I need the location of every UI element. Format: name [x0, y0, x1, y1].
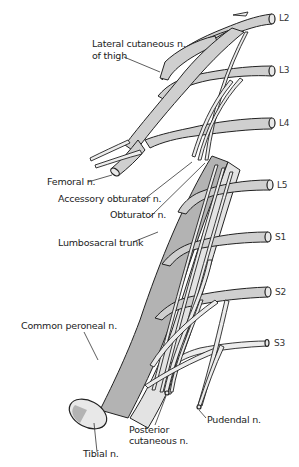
root-label-L3: L3	[279, 65, 289, 76]
root-L4-cap	[269, 118, 275, 128]
root-label-S3: S3	[274, 338, 285, 349]
label-obturator: Obturator n.	[110, 209, 166, 220]
root-S3-cap	[265, 340, 269, 347]
leader-pudendal	[199, 410, 206, 418]
root-label-L2: L2	[279, 13, 289, 24]
label-femoral: Femoral n.	[47, 176, 95, 187]
root-label-L5: L5	[277, 180, 287, 191]
sciatic-cut-end	[64, 393, 112, 435]
leader-common-peroneal	[84, 332, 98, 360]
lumbar-plexus-group	[90, 12, 275, 178]
label-lumbosacral-trunk: Lumbosacral trunk	[58, 237, 143, 248]
label-lateral-cutaneous-line1: Lateral cutaneous n.	[92, 38, 186, 49]
root-label-S2: S2	[275, 287, 286, 298]
label-accessory-obturator: Accessory obturator n.	[58, 193, 161, 204]
root-S2-cap	[265, 287, 271, 297]
label-common-peroneal: Common peroneal n.	[21, 320, 117, 331]
L2-small-branch	[233, 12, 248, 16]
label-tibial: Tibial n.	[83, 448, 119, 459]
label-posterior-cutaneous-line1: Posterior	[129, 424, 169, 435]
pudendal-cap	[197, 405, 201, 409]
posterior-cutaneous-cap	[165, 391, 169, 395]
label-lateral-cutaneous-line2: of thigh	[92, 50, 127, 61]
root-S1-cap	[265, 232, 271, 242]
root-label-S1: S1	[275, 232, 286, 243]
label-pudendal: Pudendal n.	[207, 414, 261, 425]
leader-lateral-cutaneous	[124, 57, 160, 72]
root-L2-cap	[269, 14, 275, 24]
root-L3-cap	[269, 66, 275, 76]
root-L5-cap	[267, 180, 273, 190]
lumbosacral-plexus-diagram	[0, 0, 299, 467]
label-posterior-cutaneous-line2: cutaneous n.	[129, 435, 188, 446]
root-label-L4: L4	[279, 118, 289, 129]
